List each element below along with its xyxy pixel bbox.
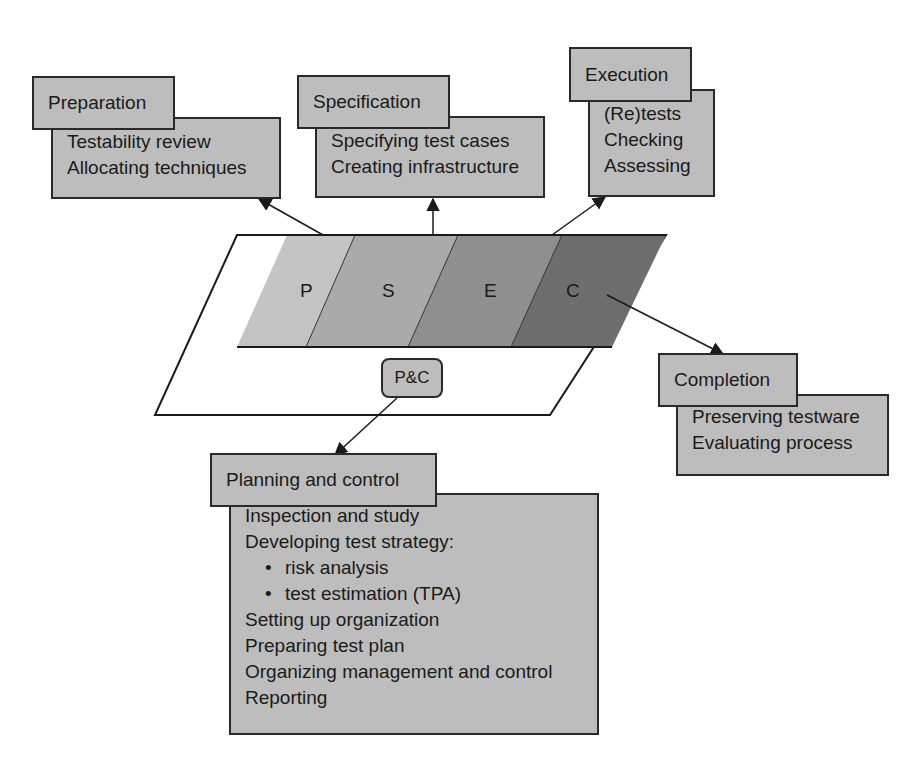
planning-item: Setting up organization bbox=[245, 607, 583, 633]
planning-control-body: Inspection and study Developing test str… bbox=[229, 493, 599, 735]
planning-item: Developing test strategy: bbox=[245, 529, 583, 555]
phase-label-e: E bbox=[484, 280, 497, 302]
specification-item: Creating infrastructure bbox=[331, 154, 529, 180]
execution-body: (Re)tests Checking Assessing bbox=[588, 89, 715, 197]
arrow-to-execution bbox=[552, 197, 605, 235]
preparation-item: Allocating techniques bbox=[67, 155, 265, 181]
execution-item: Assessing bbox=[604, 153, 699, 179]
execution-item: Checking bbox=[604, 127, 699, 153]
arrow-to-completion bbox=[607, 295, 723, 354]
planning-subitem: test estimation (TPA) bbox=[245, 581, 583, 607]
phase-label-c: C bbox=[566, 280, 580, 302]
arrow-to-preparation bbox=[259, 199, 323, 235]
preparation-item: Testability review bbox=[67, 129, 265, 155]
planning-item: Preparing test plan bbox=[245, 633, 583, 659]
planning-control-title: Planning and control bbox=[210, 453, 437, 507]
specification-title: Specification bbox=[297, 75, 450, 129]
completion-item: Evaluating process bbox=[692, 430, 873, 456]
completion-item: Preserving testware bbox=[692, 404, 873, 430]
phase-label-p: P bbox=[300, 280, 313, 302]
planning-item: Organizing management and control bbox=[245, 659, 583, 685]
execution-title: Execution bbox=[569, 47, 692, 102]
specification-item: Specifying test cases bbox=[331, 128, 529, 154]
planning-subitem: risk analysis bbox=[245, 555, 583, 581]
execution-item: (Re)tests bbox=[604, 101, 699, 127]
completion-title: Completion bbox=[658, 353, 798, 407]
phase-label-s: S bbox=[382, 280, 395, 302]
planning-item: Reporting bbox=[245, 685, 583, 711]
preparation-title: Preparation bbox=[32, 76, 175, 130]
planning-control-badge: P&C bbox=[381, 358, 443, 398]
